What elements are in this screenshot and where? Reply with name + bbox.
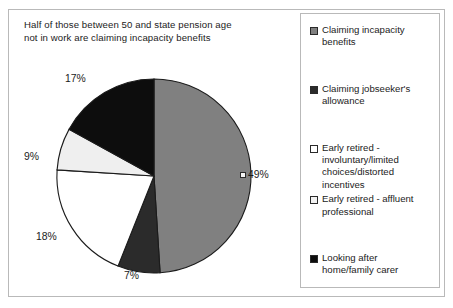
legend-item-looking-after-home[interactable]: Looking after home/family carer: [310, 252, 435, 277]
legend-item-claiming-incapacity[interactable]: Claiming incapacity benefits: [310, 24, 435, 49]
legend-swatch-icon-claiming-incapacity: [310, 27, 318, 35]
pie-value-label-early-retired-involuntary: 18%: [36, 231, 57, 242]
legend-item-early-retired-affluent[interactable]: Early retired - affluent professional: [310, 193, 435, 218]
page-title: Half of those between 50 and state pensi…: [24, 18, 286, 44]
legend-swatch-icon-early-retired-affluent: [310, 196, 318, 204]
legend-swatch-icon-looking-after-home: [310, 255, 318, 263]
legend-item-list: Claiming incapacity benefits Claiming jo…: [310, 24, 435, 283]
pie-label-marker-icon: [240, 172, 246, 178]
legend-item-claiming-jobseekers[interactable]: Claiming jobseeker's allowance: [310, 83, 435, 108]
figure-root: Half of those between 50 and state pensi…: [0, 0, 453, 308]
pie-value-label-claiming-incapacity: 49%: [240, 169, 269, 180]
legend-swatch-icon-claiming-jobseekers: [310, 86, 318, 94]
chart-legend: Claiming incapacity benefits Claiming jo…: [300, 13, 440, 288]
legend-label-early-retired-involuntary: Early retired - involuntary/limited choi…: [322, 142, 399, 192]
legend-item-early-retired-involuntary[interactable]: Early retired - involuntary/limited choi…: [310, 142, 435, 192]
pie-value-label-early-retired-affluent: 9%: [24, 151, 39, 162]
pie-value-label-looking-after-home: 17%: [65, 73, 86, 84]
pie-slice-claiming-incapacity[interactable]: [154, 79, 251, 273]
legend-swatch-icon-early-retired-involuntary: [310, 145, 318, 153]
legend-label-claiming-incapacity: Claiming incapacity benefits: [322, 24, 405, 49]
legend-label-looking-after-home: Looking after home/family carer: [322, 252, 398, 277]
legend-label-early-retired-affluent: Early retired - affluent professional: [322, 193, 414, 218]
pie-value-label-claiming-jobseekers: 7%: [124, 270, 139, 281]
pie-chart-plot-area: 49% 7% 18% 9% 17%: [16, 62, 292, 290]
legend-label-claiming-jobseekers: Claiming jobseeker's allowance: [322, 83, 410, 108]
